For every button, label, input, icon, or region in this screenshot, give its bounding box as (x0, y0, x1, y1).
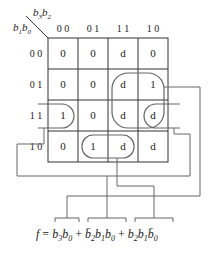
kmap-diagram: b3b2 b1b0 0 0 0 1 1 1 1 0 0 0 0 1 1 1 1 … (0, 0, 209, 257)
kmap-svg: b3b2 b1b0 0 0 0 1 1 1 1 0 0 0 0 1 1 1 1 … (0, 0, 209, 257)
cell: 1 (60, 109, 66, 121)
cell: d (120, 109, 126, 121)
col-label-2: 1 1 (117, 23, 130, 34)
cell: d (120, 47, 126, 59)
cell: 0 (90, 78, 96, 90)
group-wrap-left (38, 104, 74, 128)
col-label-3: 1 0 (147, 23, 160, 34)
cell: d (150, 109, 156, 121)
cell: d (120, 78, 126, 90)
cell: 0 (90, 47, 96, 59)
col-label-1: 0 1 (87, 23, 100, 34)
cell: d (150, 140, 156, 152)
cell: 0 (60, 47, 66, 59)
row-var-label: b1b0 (13, 21, 32, 36)
col-label-0: 0 0 (57, 23, 70, 34)
row-label-3: 1 0 (30, 141, 43, 152)
equation: f = b3b0 + b̄2b1b0 + b2b1b̄0 (36, 227, 158, 243)
row-label-2: 1 1 (30, 110, 43, 121)
col-var-label: b3b2 (33, 6, 52, 21)
cell: d (120, 140, 126, 152)
cell: 1 (150, 78, 156, 90)
cell: 0 (150, 47, 156, 59)
cell: 0 (90, 109, 96, 121)
row-label-1: 0 1 (30, 79, 43, 90)
cell: 0 (60, 78, 66, 90)
row-label-0: 0 0 (30, 48, 43, 59)
cell: 1 (90, 140, 96, 152)
cell: 0 (60, 140, 66, 152)
